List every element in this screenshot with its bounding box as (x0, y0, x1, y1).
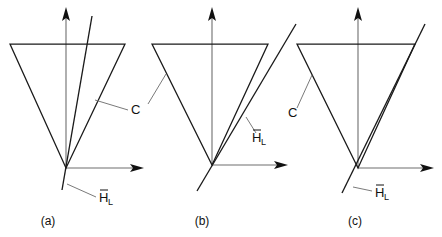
panel-a-hl-label-main: H (99, 190, 108, 205)
panel-a-cone (10, 44, 125, 168)
panel-b-hl-label: H L (252, 130, 266, 147)
panel-a-hl-leader (67, 184, 96, 197)
panel-a-cone-outline (10, 44, 125, 168)
panel-b-hl-label-main: H (252, 130, 261, 145)
panel-a-caption: (a) (41, 214, 56, 228)
panel-b-caption: (b) (195, 214, 210, 228)
panel-c: H L C (c) (288, 7, 434, 228)
panel-b-c-leader (148, 74, 166, 104)
panel-a-hl-label: H L (99, 190, 113, 207)
panel-b: H L (b) (148, 7, 296, 228)
panel-c-cone-outline (297, 44, 415, 168)
cone-label-c-panel-c: C (288, 105, 297, 120)
panel-b-cone-outline (152, 44, 268, 165)
diagram-canvas: H L (a) C H L (0, 0, 442, 237)
panel-b-cone (152, 44, 268, 165)
panel-a-c-leader (95, 100, 128, 110)
cone-label-c-shared: C (131, 102, 140, 117)
panel-c-c-leader (297, 75, 312, 108)
figure-root: H L (a) C H L (0, 0, 442, 237)
panel-c-cone (297, 44, 415, 168)
panel-a-hl-label-subscript: L (108, 197, 113, 207)
panel-b-hl-label-subscript: L (261, 137, 266, 147)
panel-a: H L (a) (10, 7, 144, 228)
panel-c-hl-label-subscript: L (384, 192, 389, 202)
panel-c-hl-label-main: H (375, 185, 384, 200)
panel-c-hl-leader (353, 187, 372, 191)
panel-c-hl-label: H L (375, 185, 389, 202)
panel-c-caption: (c) (348, 214, 362, 228)
